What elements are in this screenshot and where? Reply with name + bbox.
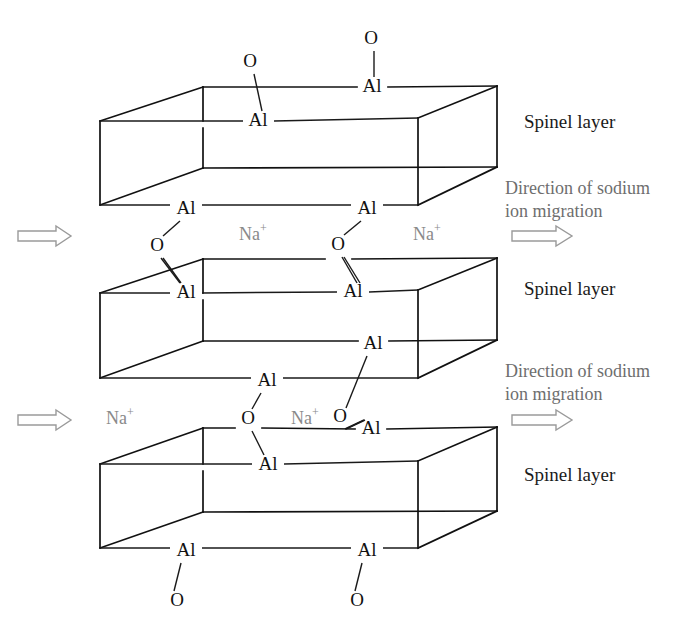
atom-al-b1-bottom-right: Al	[358, 197, 377, 218]
atom-al-b3-bottom-left: Al	[177, 539, 196, 560]
spinel-layer-label-1: Spinel layer	[524, 111, 616, 132]
atom-al-b3-front-top: Al	[259, 453, 278, 474]
diagram-canvas: O O Al Al Al Al O O Al Al Al Al O O Al A…	[0, 0, 692, 626]
sodium-ion-3-symbol: Na	[106, 408, 127, 428]
atom-al-b1-back-right: Al	[363, 75, 382, 96]
sodium-ion-2-charge: +	[434, 221, 441, 235]
box3-back-bottom-edge	[203, 511, 497, 512]
sodium-ion-1-charge: +	[260, 221, 267, 235]
box2-back-bottom-right-seg	[389, 340, 497, 341]
sodium-ion-1-symbol: Na	[239, 224, 260, 244]
migration-2-line2: ion migration	[505, 384, 603, 404]
atom-o-gap1-right: O	[331, 233, 345, 254]
atom-al-b1-bottom-left: Al	[177, 197, 196, 218]
spinel-layer-label-3: Spinel layer	[524, 464, 616, 485]
atom-o-bottom-2: O	[350, 589, 364, 610]
atom-o-top-2: O	[364, 27, 378, 48]
atom-al-b2-bottom: Al	[258, 369, 277, 390]
atom-al-b2-back-bottom-right: Al	[364, 332, 383, 353]
atom-al-b2-front-top-left: Al	[177, 281, 196, 302]
atom-o-gap2-left: O	[241, 407, 255, 428]
box1-back-bottom-edge	[203, 167, 497, 168]
atom-o-gap1-left: O	[150, 234, 164, 255]
migration-2-line1: Direction of sodium	[505, 361, 650, 381]
spinel-layer-label-2: Spinel layer	[524, 278, 616, 299]
atom-o-top-1: O	[243, 50, 257, 71]
sodium-ion-3-charge: +	[127, 405, 134, 419]
sodium-ion-2-symbol: Na	[413, 224, 434, 244]
migration-1-line1: Direction of sodium	[505, 178, 650, 198]
box2-back-top-right-seg	[352, 258, 497, 259]
canvas-background	[0, 0, 692, 626]
atom-al-b3-back-top-right: Al	[362, 417, 381, 438]
beta-alumina-diagram: O O Al Al Al Al O O Al Al Al Al O O Al A…	[0, 0, 692, 626]
migration-1-line2: ion migration	[505, 201, 603, 221]
atom-o-bottom-1: O	[170, 589, 184, 610]
atom-al-b3-bottom-right: Al	[358, 539, 377, 560]
atom-al-b2-front-top-right: Al	[344, 280, 363, 301]
box1-back-top-right-seg	[388, 86, 497, 87]
atom-al-b1-front-top: Al	[249, 109, 268, 130]
sodium-ion-4-symbol: Na	[291, 408, 312, 428]
sodium-ion-4-charge: +	[312, 405, 319, 419]
box2-front-top-seg-b	[202, 292, 337, 293]
box3-back-top-seg-b	[262, 428, 355, 429]
atom-o-gap2-right: O	[333, 405, 347, 426]
